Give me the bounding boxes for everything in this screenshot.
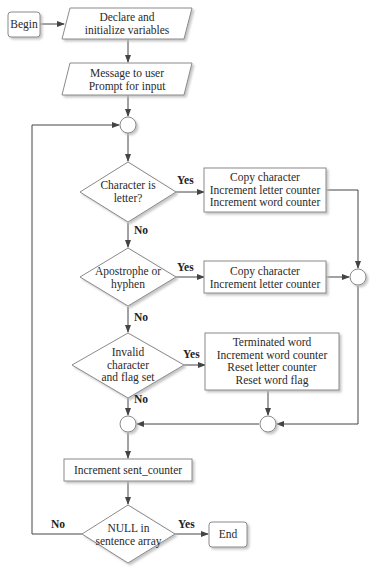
box-letter-line2: Increment letter counter	[204, 184, 326, 197]
edge-label-letter-yes: Yes	[177, 174, 194, 186]
edge-label-null-no: No	[51, 518, 65, 530]
box-invalid-label: Terminated word Increment word counter R…	[205, 336, 339, 386]
edge-label-null-yes: Yes	[178, 518, 195, 530]
decision-apostrophe-line2: hyphen	[80, 278, 176, 291]
decision-invalid-line3: and flag set	[72, 371, 184, 384]
box-letter-line3: Increment word counter	[204, 196, 326, 209]
box-invalid-line3: Reset letter counter	[205, 361, 339, 374]
end-label: End	[209, 528, 247, 541]
begin-label: Begin	[8, 18, 40, 31]
edge-label-invalid-yes: Yes	[183, 348, 200, 360]
declare-line2: initialize variables	[62, 24, 192, 37]
box-letter-line1: Copy character	[204, 171, 326, 184]
declare-line1: Declare and	[62, 11, 192, 24]
message-label: Message to user Prompt for input	[62, 67, 192, 92]
box-invalid-line4: Reset word flag	[205, 374, 339, 387]
decision-apostrophe-label: Apostrophe or hyphen	[80, 265, 176, 290]
decision-invalid-line1: Invalid	[72, 346, 184, 359]
merge-connector-bottom-mid	[260, 416, 276, 432]
increment-sent-label: Increment sent_counter	[64, 464, 192, 477]
merge-connector-right	[350, 269, 366, 285]
box-apostrophe-line1: Copy character	[204, 265, 326, 278]
box-letter-label: Copy character Increment letter counter …	[204, 171, 326, 209]
edge-label-invalid-no: No	[134, 393, 148, 405]
declare-label: Declare and initialize variables	[62, 11, 192, 36]
message-line1: Message to user	[62, 67, 192, 80]
edge-label-apostrophe-no: No	[134, 311, 148, 323]
box-invalid-line1: Terminated word	[205, 336, 339, 349]
decision-letter-label: Character is letter?	[80, 179, 176, 204]
decision-null-line2: sentence array	[82, 535, 175, 548]
decision-invalid-label: Invalid character and flag set	[72, 346, 184, 384]
decision-letter-line1: Character is	[80, 179, 176, 192]
decision-letter-line2: letter?	[80, 192, 176, 205]
merge-connector-bottom-left	[120, 416, 136, 432]
decision-invalid-line2: character	[72, 359, 184, 372]
decision-apostrophe-line1: Apostrophe or	[80, 265, 176, 278]
merge-connector-top	[120, 117, 136, 133]
edge-label-apostrophe-yes: Yes	[177, 261, 194, 273]
decision-null-label: NULL in sentence array	[82, 522, 175, 547]
box-apostrophe-label: Copy character Increment letter counter	[204, 265, 326, 290]
decision-null-line1: NULL in	[82, 522, 175, 535]
message-line2: Prompt for input	[62, 80, 192, 93]
edge-label-letter-no: No	[134, 224, 148, 236]
box-invalid-line2: Increment word counter	[205, 349, 339, 362]
box-apostrophe-line2: Increment letter counter	[204, 278, 326, 291]
